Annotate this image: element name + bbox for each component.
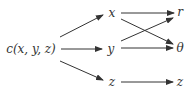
node-z-middle: z	[109, 76, 115, 88]
node-x: x	[109, 7, 116, 19]
dependency-diagram: c(x, y, z) x y z r θ z	[0, 0, 191, 92]
node-y: y	[108, 43, 115, 55]
edge-c-to-z	[60, 61, 103, 80]
edge-c-to-x	[60, 15, 103, 37]
node-theta: θ	[176, 42, 183, 54]
edge-y-to-r	[121, 18, 173, 41]
node-r: r	[177, 6, 183, 18]
node-c: c(x, y, z)	[6, 43, 56, 55]
node-z-right: z	[177, 76, 183, 88]
edge-x-to-theta	[121, 19, 173, 44]
